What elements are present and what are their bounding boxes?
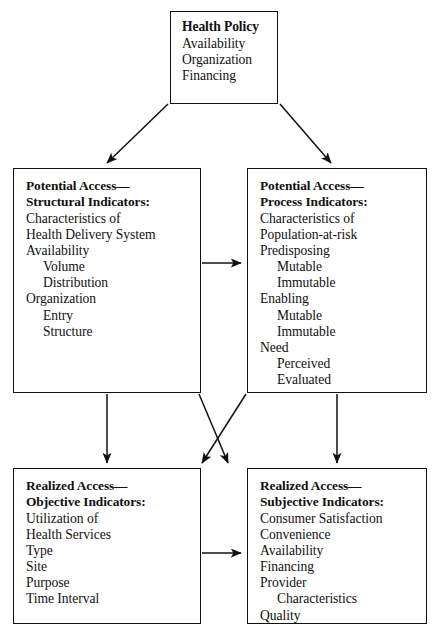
box-potential-access-process-title: Potential Access— Process Indicators: — [260, 178, 416, 210]
box-realized-access-subjective-title: Realized Access— Subjective Indicators: — [260, 478, 416, 510]
box-realized-access-objective-lines: Utilization of Health Services Type Site… — [26, 511, 190, 608]
box-realized-access-objective: Realized Access— Objective Indicators: U… — [13, 468, 201, 624]
box-line: Perceived — [260, 356, 416, 372]
connector-health-policy-to-potential-process — [280, 104, 331, 163]
diagram-canvas: Health Policy Availability Organization … — [0, 0, 434, 642]
box-line: Type — [26, 543, 190, 559]
box-line: Enabling — [260, 291, 416, 307]
box-line: Organization — [182, 52, 269, 68]
box-line: Financing — [260, 559, 416, 575]
box-line: Time Interval — [26, 591, 190, 607]
box-health-policy-title: Health Policy — [182, 19, 269, 35]
box-line: Immutable — [260, 324, 416, 340]
box-line: Structure — [26, 324, 190, 340]
box-line: Characteristics of — [260, 211, 416, 227]
box-line: Site — [26, 559, 190, 575]
box-line: Health Services — [26, 527, 190, 543]
box-line: Immutable — [260, 275, 416, 291]
box-line: Consumer Satisfaction — [260, 511, 416, 527]
box-potential-access-process: Potential Access— Process Indicators: Ch… — [247, 168, 427, 393]
box-line: Population-at-risk — [260, 227, 416, 243]
box-line: Characteristics — [260, 591, 416, 607]
box-line: Financing — [182, 68, 269, 84]
box-line: Need — [260, 340, 416, 356]
box-potential-access-process-lines: Characteristics of Population-at-risk Pr… — [260, 211, 416, 389]
box-line: Entry — [26, 308, 190, 324]
connector-health-policy-to-potential-structural — [107, 104, 168, 163]
box-realized-access-subjective-lines: Consumer Satisfaction Convenience Availa… — [260, 511, 416, 624]
box-line: Mutable — [260, 259, 416, 275]
box-line: Distribution — [26, 275, 190, 291]
box-line: Health Delivery System — [26, 227, 190, 243]
box-line: Availability — [26, 243, 190, 259]
box-line: Convenience — [260, 527, 416, 543]
box-line: Organization — [26, 291, 190, 307]
box-line: Characteristics of — [26, 211, 190, 227]
connector-potential-process-to-realized-objective — [202, 394, 246, 463]
box-line: Predisposing — [260, 243, 416, 259]
box-line: Provider — [260, 575, 416, 591]
box-line: Quality — [260, 608, 416, 624]
box-realized-access-subjective: Realized Access— Subjective Indicators: … — [247, 468, 427, 624]
box-line: Availability — [182, 36, 269, 52]
box-line: Volume — [26, 259, 190, 275]
box-line: Mutable — [260, 308, 416, 324]
box-health-policy-lines: Availability Organization Financing — [182, 36, 269, 85]
box-realized-access-objective-title: Realized Access— Objective Indicators: — [26, 478, 190, 510]
box-potential-access-structural-title: Potential Access— Structural Indicators: — [26, 178, 190, 210]
box-potential-access-structural-lines: Characteristics of Health Delivery Syste… — [26, 211, 190, 340]
box-line: Utilization of — [26, 511, 190, 527]
box-health-policy: Health Policy Availability Organization … — [170, 11, 278, 104]
connector-potential-structural-to-realized-subjective — [199, 394, 228, 463]
box-potential-access-structural: Potential Access— Structural Indicators:… — [13, 168, 201, 393]
box-line: Purpose — [26, 575, 190, 591]
box-line: Availability — [260, 543, 416, 559]
box-line: Evaluated — [260, 372, 416, 388]
